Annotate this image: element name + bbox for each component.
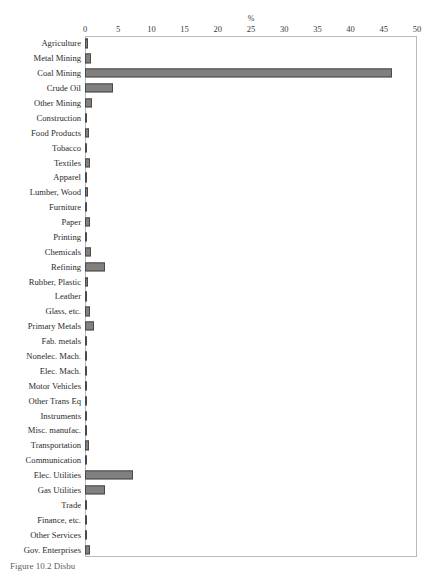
bar [85,173,87,182]
bar [85,39,88,48]
bar [85,307,90,316]
x-tick-label-25: 25 [247,24,256,34]
bar-row: Instruments [0,408,437,423]
figure-caption: Figure 10.2 Disbu [10,561,75,572]
bar [85,456,87,465]
category-label-misc-manufac: Misc. manufac. [28,425,81,435]
category-label-furniture: Furniture [49,202,81,212]
bar-row: Gas Utilities [0,483,437,498]
x-tick-label-30: 30 [280,24,289,34]
bar-row: Glass, etc. [0,304,437,319]
bar-row: Paper [0,215,437,230]
category-label-fab-metals: Fab. metals [41,336,81,346]
x-tick-label-45: 45 [380,24,389,34]
bar-row: Metal Mining [0,51,437,66]
bar-row: Coal Mining [0,66,437,81]
bar-row: Elec. Utilities [0,468,437,483]
category-label-motor-vehicles: Motor Vehicles [28,381,81,391]
bar-row: Agriculture [0,36,437,51]
bar [85,203,87,212]
x-tick-label-20: 20 [214,24,223,34]
bar-rows: AgricultureMetal MiningCoal MiningCrude … [0,36,437,557]
bar-row: Rubber, Plastic [0,274,437,289]
bar [85,217,90,226]
x-tick-label-10: 10 [147,24,156,34]
bar [85,143,87,152]
bar-row: Chemicals [0,244,437,259]
category-label-tobacco: Tobacco [52,143,81,153]
bar [85,84,113,93]
category-label-rubber-plastic: Rubber, Plastic [29,277,81,287]
bar [85,411,87,420]
category-label-elec-mach: Elec. Mach. [40,366,81,376]
category-label-finance-etc: Finance, etc. [37,515,81,525]
category-label-paper: Paper [61,217,81,227]
category-label-construction: Construction [37,113,81,123]
category-label-refining: Refining [51,262,81,272]
bar-row: Leather [0,289,437,304]
category-label-communication: Communication [26,455,81,465]
bar-row: Lumber, Wood [0,185,437,200]
x-tick-label-15: 15 [180,24,189,34]
x-tick-label-5: 5 [116,24,120,34]
bar-row: Furniture [0,200,437,215]
category-label-metal-mining: Metal Mining [33,53,81,63]
bar [85,396,87,405]
bar [85,351,87,360]
bar [85,54,91,63]
category-label-textiles: Textiles [54,158,81,168]
bar [85,381,87,390]
category-label-glass-etc: Glass, etc. [45,306,81,316]
bar [85,366,87,375]
bar-row: Other Services [0,527,437,542]
bar [85,426,87,435]
bar-row: Construction [0,110,437,125]
bar [85,247,91,256]
bar-row: Food Products [0,125,437,140]
category-label-transportation: Transportation [31,440,81,450]
category-label-gas-utilities: Gas Utilities [38,485,81,495]
category-label-primary-metals: Primary Metals [28,321,81,331]
category-label-other-trans-eq: Other Trans Eq [28,396,81,406]
bar [85,500,87,509]
category-label-printing: Printing [53,232,81,242]
bar-row: Textiles [0,155,437,170]
bar-row: Transportation [0,438,437,453]
bar [85,471,133,480]
bar-row: Trade [0,497,437,512]
bar [85,262,105,271]
category-label-other-services: Other Services [30,530,81,540]
bar-row: Finance, etc. [0,512,437,527]
bar-row: Printing [0,230,437,245]
bar-row: Crude Oil [0,81,437,96]
bar [85,337,87,346]
category-label-trade: Trade [61,500,81,510]
bar [85,188,88,197]
bar [85,322,94,331]
category-label-leather: Leather [55,291,81,301]
category-label-food-products: Food Products [31,128,81,138]
category-label-instruments: Instruments [40,411,81,421]
bar [85,113,87,122]
category-label-lumber-wood: Lumber, Wood [30,187,81,197]
bar-row: Motor Vehicles [0,378,437,393]
category-label-elec-utilities: Elec. Utilities [34,470,81,480]
bar-row: Gov. Enterprises [0,542,437,557]
bar-row: Tobacco [0,140,437,155]
bar [85,232,87,241]
bar-row: Apparel [0,170,437,185]
bar [85,545,90,554]
category-label-other-mining: Other Mining [34,98,81,108]
bar [85,530,87,539]
bar-row: Fab. metals [0,334,437,349]
category-label-gov-enterprises: Gov. Enterprises [24,545,81,555]
bar-row: Other Trans Eq [0,393,437,408]
category-label-agriculture: Agriculture [41,38,81,48]
x-tick-label-0: 0 [83,24,87,34]
category-label-crude-oil: Crude Oil [47,83,81,93]
bar [85,441,89,450]
bar-row: Misc. manufac. [0,423,437,438]
x-axis-title: % [248,14,255,23]
x-tick-label-35: 35 [313,24,322,34]
category-label-chemicals: Chemicals [45,247,81,257]
